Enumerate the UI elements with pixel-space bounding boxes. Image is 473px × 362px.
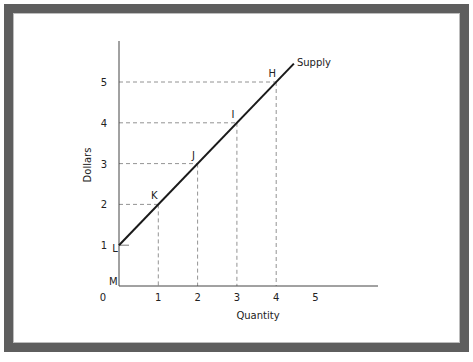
y-tick-label: 1 bbox=[101, 240, 107, 251]
x-tick-label: 4 bbox=[273, 292, 279, 303]
point-label-h: H bbox=[268, 68, 276, 79]
y-tick-label: 5 bbox=[101, 77, 107, 88]
x-tick-label: 3 bbox=[234, 292, 240, 303]
supply-chart: 01234512345 LKJIH Quantity Dollars M Sup… bbox=[0, 0, 473, 362]
x-axis-title: Quantity bbox=[236, 310, 279, 321]
point-label-l: L bbox=[112, 243, 118, 254]
y-axis-title: Dollars bbox=[82, 148, 93, 183]
supply-line bbox=[119, 64, 294, 246]
x-tick-label: 1 bbox=[155, 292, 161, 303]
origin-label: M bbox=[109, 276, 118, 287]
x-tick-label: 0 bbox=[100, 292, 106, 303]
y-tick-label: 2 bbox=[101, 199, 107, 210]
x-tick-label: 2 bbox=[194, 292, 200, 303]
series bbox=[119, 64, 294, 246]
x-tick-label: 5 bbox=[312, 292, 318, 303]
y-tick-label: 4 bbox=[101, 118, 107, 129]
point-label-i: I bbox=[231, 109, 234, 120]
y-tick-label: 3 bbox=[101, 159, 107, 170]
series-label-supply: Supply bbox=[297, 57, 331, 68]
tick-labels: 01234512345 bbox=[100, 77, 319, 303]
guide-lines bbox=[119, 82, 276, 286]
point-label-j: J bbox=[191, 150, 195, 161]
point-label-k: K bbox=[151, 190, 158, 201]
